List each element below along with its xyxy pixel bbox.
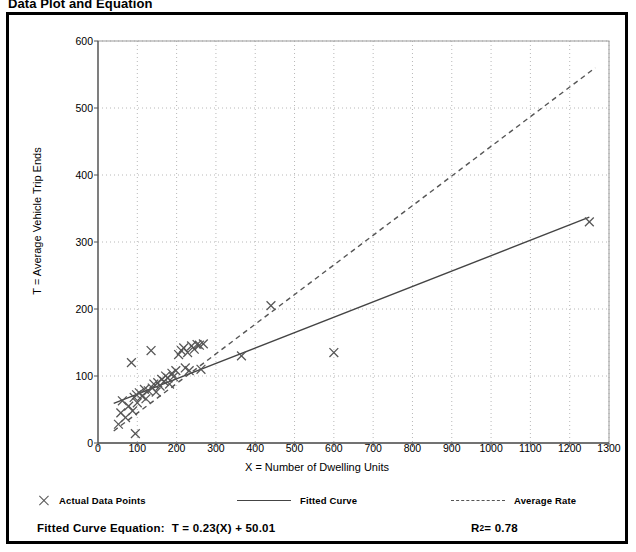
page-title: Data Plot and Equation [8, 0, 152, 11]
legend-item-actual-data-points: Actual Data Points [37, 485, 146, 515]
equation-row: Fitted Curve Equation: T = 0.23(X) + 50.… [9, 515, 625, 541]
chart-legend: Actual Data Points Fitted Curve Average … [9, 485, 625, 515]
legend-label-average-rate: Average Rate [514, 495, 576, 506]
equation-label: Fitted Curve Equation: [37, 522, 165, 534]
r-squared-number: = 0.78 [484, 522, 518, 534]
x-marker-icon [37, 494, 50, 507]
legend-label-actual-data-points: Actual Data Points [59, 495, 146, 506]
equation-expression: T = 0.23(X) + 50.01 [172, 522, 276, 534]
r-squared-value: R2 = 0.78 [471, 515, 518, 541]
chart-area: T = Average Vehicle Trip Ends X = Number… [9, 15, 625, 485]
legend-item-fitted-curve: Fitted Curve [237, 485, 357, 515]
legend-item-average-rate: Average Rate [451, 485, 576, 515]
solid-line-icon [237, 500, 291, 501]
scatter-plot [9, 15, 625, 485]
chart-panel: T = Average Vehicle Trip Ends X = Number… [6, 12, 628, 544]
fitted-curve-equation: Fitted Curve Equation: T = 0.23(X) + 50.… [37, 515, 275, 541]
legend-label-fitted-curve: Fitted Curve [300, 495, 357, 506]
r-squared-symbol: R [471, 522, 480, 534]
dashed-line-icon [451, 500, 505, 501]
